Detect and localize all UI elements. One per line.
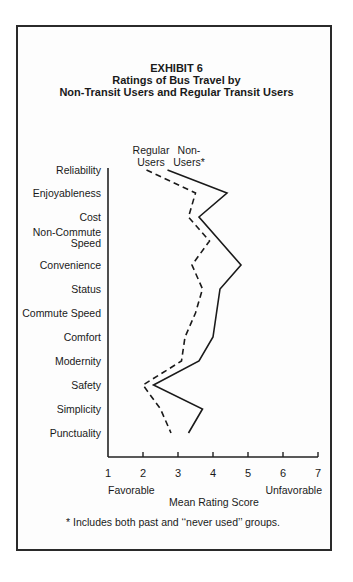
y-label-punctuality: Punctuality (50, 427, 102, 439)
legend-non-line1: Non- (178, 144, 201, 156)
x-tick-6: 6 (280, 467, 286, 479)
unfavorable-label: Unfavorable (265, 484, 322, 496)
y-axis-labels: ReliabilityEnjoyablenessCostNon-CommuteS… (22, 164, 102, 439)
legend-non-line2: Users* (173, 156, 205, 168)
y-label-non-commute-speed: Speed (71, 237, 102, 249)
y-label-commute-speed: Commute Speed (22, 307, 101, 319)
x-tick-3: 3 (175, 467, 181, 479)
regular-users-line (143, 170, 210, 433)
x-tick-2: 2 (140, 467, 146, 479)
y-label-safety: Safety (71, 379, 102, 391)
y-label-reliability: Reliability (56, 164, 102, 176)
x-axis-title: Mean Rating Score (169, 496, 259, 508)
y-label-status: Status (71, 283, 101, 295)
y-label-convenience: Convenience (40, 259, 101, 271)
chart-svg: ReliabilityEnjoyablenessCostNon-CommuteS… (0, 0, 353, 582)
x-tick-4: 4 (210, 467, 216, 479)
footnote: * Includes both past and ‘‘never used’’ … (66, 516, 280, 528)
x-tick-7: 7 (315, 467, 321, 479)
y-label-cost: Cost (79, 211, 101, 223)
y-label-comfort: Comfort (64, 331, 101, 343)
favorable-label: Favorable (108, 484, 155, 496)
legend-regular-line2: Users (137, 156, 164, 168)
y-label-enjoyableness: Enjoyableness (33, 187, 101, 199)
x-tick-1: 1 (105, 467, 111, 479)
non-users-line (154, 170, 242, 433)
x-axis-ticks: 1234567 (105, 452, 321, 479)
y-label-simplicity: Simplicity (57, 403, 102, 415)
x-tick-5: 5 (245, 467, 251, 479)
y-label-modernity: Modernity (55, 355, 102, 367)
legend-regular-line1: Regular (133, 144, 170, 156)
